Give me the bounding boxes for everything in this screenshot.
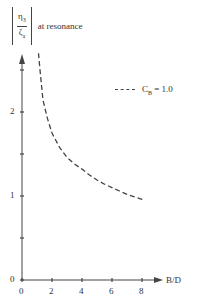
x-tick-label: 8	[139, 286, 144, 296]
x-tick-label: 0	[19, 286, 24, 296]
y-tick-label: 0	[10, 274, 15, 284]
y-axis-label-suffix: at resonance	[38, 21, 83, 31]
legend: CB = 1.0	[115, 84, 173, 96]
abs-bar-right	[31, 7, 32, 45]
legend-subscript: B	[148, 90, 152, 96]
y-axis-arrow-icon	[19, 54, 25, 64]
x-tick-label: 2	[49, 286, 54, 296]
legend-label: CB = 1.0	[142, 84, 173, 96]
ratio-numerator: η3	[17, 11, 27, 27]
x-tick-label: 4	[79, 286, 84, 296]
y-axis-label: η3 ζa at resonance	[12, 6, 82, 46]
abs-bar-left	[12, 7, 13, 45]
x-tick-label: 6	[109, 286, 114, 296]
ratio-denominator: ζa	[19, 27, 25, 42]
ratio-fraction: η3 ζa	[17, 11, 27, 42]
x-axis-arrow-icon	[154, 277, 163, 283]
denominator-subscript: a	[22, 32, 25, 38]
legend-value: = 1.0	[154, 84, 173, 94]
series-cb-1-0-curve	[39, 53, 146, 200]
x-axis-label: B/D	[166, 275, 181, 285]
y-tick-label: 2	[10, 106, 15, 116]
numerator-subscript: 3	[23, 17, 26, 23]
legend-dash-swatch	[115, 89, 135, 90]
y-tick-label: 1	[10, 190, 15, 200]
